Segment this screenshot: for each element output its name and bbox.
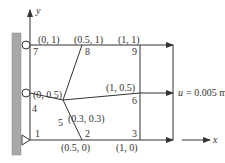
edge-8-5 [63,45,82,100]
load-value: = 0.005 m [186,87,225,98]
coord-node-8: (0.5, 1) [74,34,103,46]
y-axis-label: y [35,5,41,16]
node-6-label: 6 [132,95,137,106]
x-axis-label: x [212,134,218,145]
coord-node-7: (0, 1) [38,34,60,46]
load-var: u [178,87,183,98]
coord-node-4: (0, 0.5) [33,89,62,101]
node-7-label: 7 [33,46,38,57]
roller-support-4 [22,89,30,97]
fixed-wall [12,33,21,155]
edge-5-6 [63,93,140,100]
node-4-label: 4 [32,103,37,114]
coord-node-5: (0.3, 0.3) [68,113,105,125]
node-1-label: 1 [35,128,40,139]
node-5-label: 5 [58,117,63,128]
coord-node-6: (1, 0.5) [106,82,135,94]
coord-node-3: (1, 0) [116,142,138,154]
coord-node-9: (1, 1) [118,34,140,46]
node-9-label: 9 [132,46,137,57]
roller-support-7 [22,41,30,49]
node-8-label: 8 [85,46,90,57]
load-label: u= 0.005 m [178,87,225,98]
pin-support-1 [22,135,30,145]
coord-node-2: (0.5, 0) [61,142,90,154]
mesh-diagram: y x u= 0.005 m 1 2 3 4 5 6 7 8 9 (0.5, 0… [0,0,225,163]
node-2-label: 2 [85,128,90,139]
node-3-label: 3 [132,128,137,139]
